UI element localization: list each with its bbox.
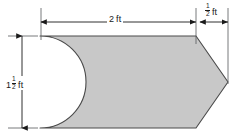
dimension-width-value: 2 [109,14,114,24]
dimension-width-unit: ft [116,14,121,24]
dimension-label-width: 2ft [107,15,123,24]
dimension-flange-fraction: 1 2 [205,3,210,17]
dimension-flange-unit: ft [212,7,217,17]
dimension-label-flange: 1 2 ft [203,3,219,17]
dimension-height-value: 1 [6,80,11,90]
dimension-flange-denominator: 2 [205,11,210,18]
dimension-height-unit: ft [18,80,23,90]
plate-shape [40,36,228,128]
geometry-figure: 2ft 1 2 ft 1 1 2 ft [0,0,237,137]
dimension-height-denominator: 2 [12,84,17,91]
dimension-label-height: 1 1 2 ft [4,76,25,90]
dimension-height-fraction: 1 2 [12,76,17,90]
plate-outline [40,36,228,128]
